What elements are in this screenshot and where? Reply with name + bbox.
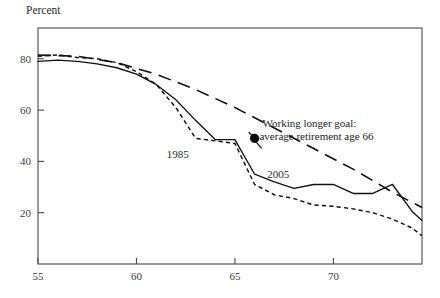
y-axis-ticks: 20406080 xyxy=(20,53,44,219)
chart-annotations: Working longer goal:average retirement a… xyxy=(249,117,374,149)
y-tick-label: 20 xyxy=(20,207,32,219)
series-label-2005: 2005 xyxy=(267,168,290,180)
x-tick-label: 70 xyxy=(328,270,340,282)
retirement-participation-line-chart: Percent 20406080 55606570 19852005 Worki… xyxy=(0,0,440,298)
y-axis-title: Percent xyxy=(26,4,61,16)
y-tick-label: 60 xyxy=(20,104,32,116)
series-inline-labels: 19852005 xyxy=(167,148,290,181)
series-line-1985 xyxy=(38,55,422,236)
x-tick-label: 65 xyxy=(229,270,241,282)
x-axis-ticks: 55606570 xyxy=(33,258,340,282)
series-paths xyxy=(38,55,422,236)
x-tick-label: 60 xyxy=(131,270,143,282)
chart-container: Percent 20406080 55606570 19852005 Worki… xyxy=(0,0,440,298)
y-tick-label: 80 xyxy=(20,53,32,65)
annotation-text-line-2: average retirement age 66 xyxy=(259,130,373,142)
series-label-1985: 1985 xyxy=(167,148,190,160)
x-tick-label: 55 xyxy=(33,270,45,282)
annotation-text-line-1: Working longer goal: xyxy=(262,117,356,129)
y-tick-label: 40 xyxy=(20,155,32,167)
